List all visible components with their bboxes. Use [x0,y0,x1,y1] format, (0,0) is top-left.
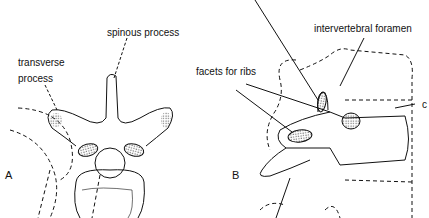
bottom-leader [276,178,290,218]
label-intervertebral-foramen: intervertebral foramen [314,23,412,35]
label-cut-off-c: c [422,99,427,111]
label-transverse-process-line2: process [18,73,53,85]
label-transverse-process-line1: transverse [18,57,65,69]
facets-for-ribs-leader-1 [246,84,330,112]
transverse-process-leader [45,85,58,112]
top-leader [255,0,318,100]
panel-label-a: A [5,169,12,181]
vertebra-diagram: spinous process transverse process A int… [0,0,429,218]
label-facets-for-ribs: facets for ribs [196,66,256,78]
spinous-process-leader [114,38,127,78]
spinous-process-shape [107,74,140,123]
intervertebral-foramen-leader [340,38,364,86]
label-spinous-process: spinous process [107,27,179,39]
panel-label-b: B [232,169,239,181]
